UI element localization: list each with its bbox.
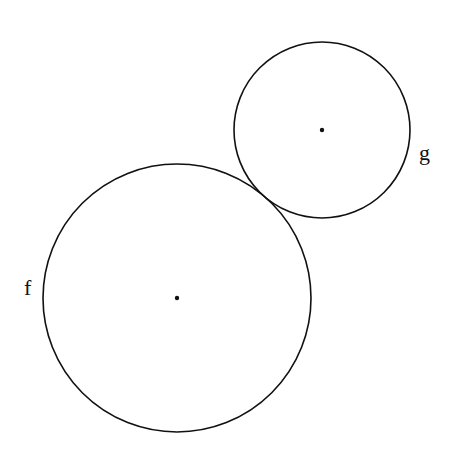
label-g: g xyxy=(419,140,430,165)
circle-g-center xyxy=(320,128,324,132)
label-f: f xyxy=(24,275,32,300)
circle-f-center xyxy=(175,296,179,300)
tangent-circles-diagram: f g xyxy=(0,0,457,460)
